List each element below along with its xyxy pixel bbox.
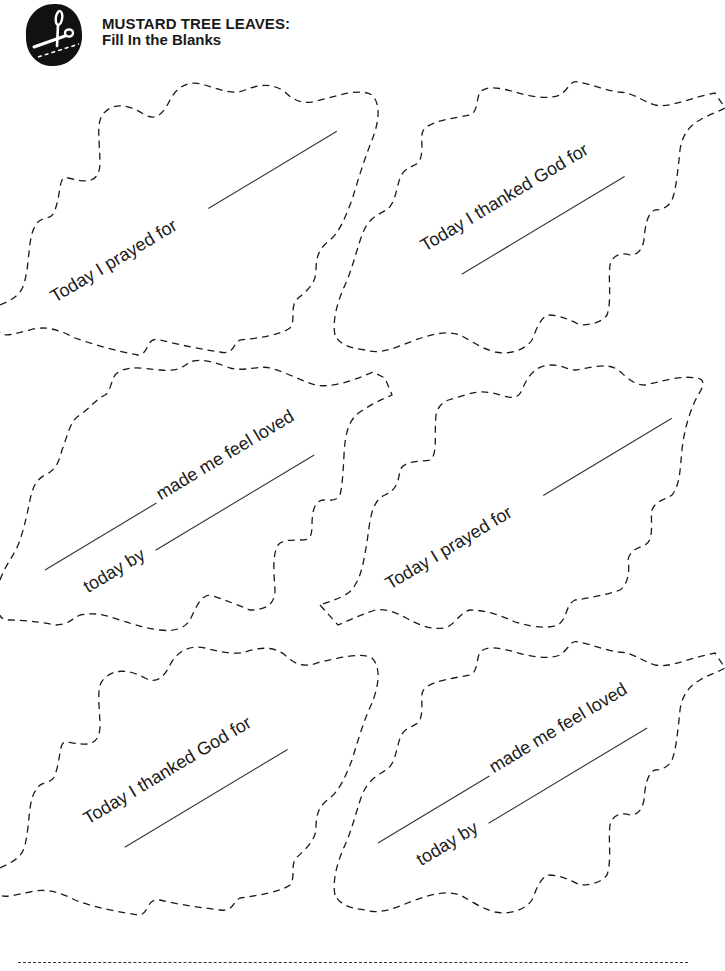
fill-in-blank[interactable] xyxy=(125,749,288,847)
leaf-top-right: Today I thanked God for xyxy=(334,82,725,353)
fill-in-blank[interactable] xyxy=(208,131,337,208)
leaf-prompt-part2: today by xyxy=(413,817,482,869)
leaf-prompt: Today I prayed for xyxy=(47,215,181,306)
leaf-middle-left: made me feel loved today by xyxy=(0,360,392,630)
leaf-top-left: Today I prayed for xyxy=(0,83,378,355)
leaf-cut-outline xyxy=(0,360,392,630)
leaf-prompt-part2: today by xyxy=(80,544,149,596)
leaf-prompt: Today I prayed for xyxy=(382,502,516,593)
leaf-cut-outline xyxy=(0,647,378,915)
leaf-cut-outline xyxy=(334,642,725,913)
leaf-bottom-left: Today I thanked God for xyxy=(0,647,378,915)
leaf-cut-outline xyxy=(0,83,378,355)
leaf-prompt: Today I thanked God for xyxy=(80,712,255,828)
leaves-sheet: Today I prayed for Today I thanked God f… xyxy=(0,0,725,971)
leaf-prompt-part1: made me feel loved xyxy=(152,406,297,504)
leaf-bottom-right: made me feel loved today by xyxy=(334,642,725,913)
leaf-prompt: Today I thanked God for xyxy=(417,139,592,255)
leaf-prompt-part1: made me feel loved xyxy=(485,679,630,777)
fill-in-blank-2[interactable] xyxy=(156,455,315,550)
fill-in-blank[interactable] xyxy=(462,176,625,274)
fill-in-blank-2[interactable] xyxy=(489,728,648,823)
leaf-cut-outline xyxy=(320,365,703,628)
page-cut-line xyxy=(18,962,688,963)
leaf-middle-right: Today I prayed for xyxy=(320,365,703,628)
leaf-cut-outline xyxy=(334,82,725,353)
fill-in-blank[interactable] xyxy=(543,418,672,495)
